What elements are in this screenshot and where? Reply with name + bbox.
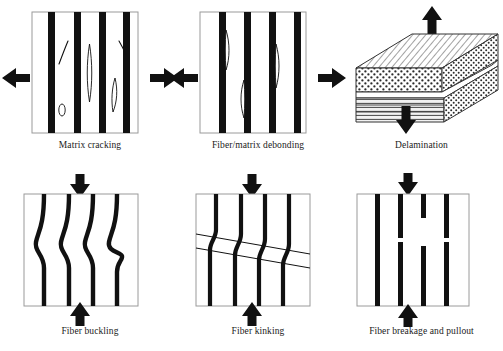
caption-fiber-matrix-debonding: Fiber/matrix debonding [168, 140, 348, 150]
arrow-up-icon [422, 6, 442, 34]
caption-fiber-breakage-and-pullout: Fiber breakage and pullout [340, 326, 503, 336]
panel-fiber-breakage-and-pullout [340, 172, 503, 322]
panel-fiber-matrix-debonding [168, 8, 348, 136]
specimen-boundary [357, 194, 469, 306]
arrow-down-icon [398, 304, 418, 327]
specimen-boundary [196, 194, 310, 306]
caption-fiber-buckling: Fiber buckling [0, 326, 180, 336]
panel-fiber-buckling [0, 172, 180, 322]
caption-delamination: Delamination [340, 140, 503, 150]
caption-fiber-kinking: Fiber kinking [168, 326, 348, 336]
panel-delamination [340, 4, 503, 136]
speckled-ply-front [356, 68, 442, 92]
specimen-boundary [24, 194, 138, 306]
failure-modes-figure: Matrix cracking Fiber/matri [0, 0, 503, 351]
panel-fiber-kinking [168, 172, 348, 322]
arrow-left-icon [2, 68, 30, 88]
caption-matrix-cracking: Matrix cracking [0, 140, 180, 150]
arrow-up-icon [398, 173, 418, 196]
horizontal-plies-front [356, 98, 444, 122]
arrow-left-icon [170, 68, 198, 88]
specimen-boundary [32, 12, 138, 133]
specimen-boundary [200, 12, 306, 133]
panel-matrix-cracking [0, 8, 180, 136]
